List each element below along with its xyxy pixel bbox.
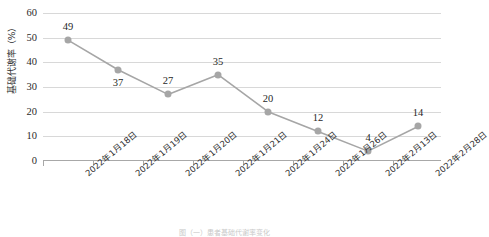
data-point-marker xyxy=(265,108,272,115)
data-point-marker xyxy=(165,91,172,98)
x-axis-tick-label: 2022年1月21日 xyxy=(232,169,240,178)
y-axis-tick-label: 60 xyxy=(27,8,38,19)
x-axis-tick-label: 2022年2月13日 xyxy=(382,169,390,178)
x-axis-tick-label: 2022年1月18日 xyxy=(82,169,90,178)
data-point-label: 37 xyxy=(113,78,124,89)
data-point-marker xyxy=(415,123,422,130)
y-axis-tick-label: 20 xyxy=(27,107,38,118)
x-axis-tick-labels: 2022年1月18日2022年1月19日2022年1月20日2022年1月21日… xyxy=(0,167,449,227)
x-axis-tick-mark xyxy=(43,161,44,166)
x-axis-tick-label: 2022年1月26日 xyxy=(332,169,340,178)
y-axis-tick-label: 30 xyxy=(27,82,38,93)
y-axis-tick-labels: 0102030405060 xyxy=(0,0,41,175)
data-point-label: 27 xyxy=(163,76,174,87)
x-axis-tick-label: 2022年1月19日 xyxy=(132,169,140,178)
data-point-marker xyxy=(115,66,122,73)
data-point-marker xyxy=(65,37,72,44)
x-axis-tick-label: 2022年1月20日 xyxy=(182,169,190,178)
chart-caption: 图（一）患者基础代谢率变化 xyxy=(0,227,449,237)
data-point-label: 14 xyxy=(413,108,424,119)
data-point-label: 49 xyxy=(63,22,74,33)
data-point-label: 35 xyxy=(213,57,224,68)
y-axis-tick-label: 10 xyxy=(27,131,38,142)
x-axis-tick-label: 2022年1月24日 xyxy=(282,169,290,178)
data-point-label: 12 xyxy=(313,113,324,124)
y-axis-tick-label: 50 xyxy=(27,33,38,44)
data-point-marker xyxy=(215,71,222,78)
data-point-label: 20 xyxy=(263,94,274,105)
y-axis-tick-label: 0 xyxy=(32,156,37,167)
x-axis-tick-label: 2022年2月28日 xyxy=(432,169,440,178)
data-point-marker xyxy=(315,128,322,135)
y-axis-tick-label: 40 xyxy=(27,57,38,68)
